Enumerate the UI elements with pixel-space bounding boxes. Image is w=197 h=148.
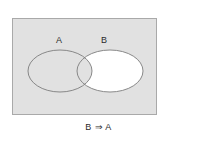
figure-caption: B ⇒ A bbox=[0, 123, 197, 132]
region-b-only-fill bbox=[12, 18, 157, 115]
set-b-label: B bbox=[101, 36, 107, 45]
set-a-label: A bbox=[56, 36, 62, 45]
venn-diagram-figure: A B B ⇒ A bbox=[0, 0, 197, 148]
